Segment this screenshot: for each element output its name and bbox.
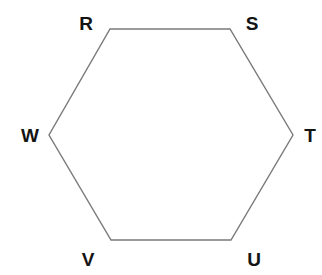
hexagon-diagram: R S T U V W: [0, 0, 322, 275]
vertex-label-v: V: [82, 249, 95, 270]
vertex-label-u: U: [247, 249, 261, 270]
hexagon-outline: [49, 29, 293, 240]
vertex-label-s: S: [246, 13, 259, 34]
vertex-label-w: W: [21, 125, 39, 146]
vertex-label-t: T: [304, 125, 316, 146]
vertex-labels: R S T U V W: [21, 13, 316, 270]
vertex-label-r: R: [79, 13, 93, 34]
